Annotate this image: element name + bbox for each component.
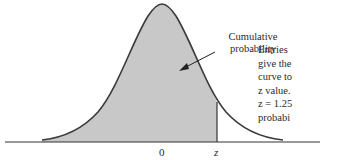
side-line-2: give the [258,57,342,71]
cumulative-shaded-area [42,4,217,142]
side-description: Entries give the curve to z value. z = 1… [258,43,342,125]
callout-line-1: Cumulative [222,31,284,43]
axis-label-mean: 0 [159,146,165,158]
side-line-1: Entries [258,43,342,57]
side-line-6: probabi [258,111,342,125]
side-line-3: curve to [258,70,342,84]
side-line-4: z value. [258,84,342,98]
side-line-5: z = 1.25 [258,97,342,111]
normal-distribution-figure: Cumulative probability Entries give the … [0,0,342,160]
axis-label-z: z [214,146,218,158]
